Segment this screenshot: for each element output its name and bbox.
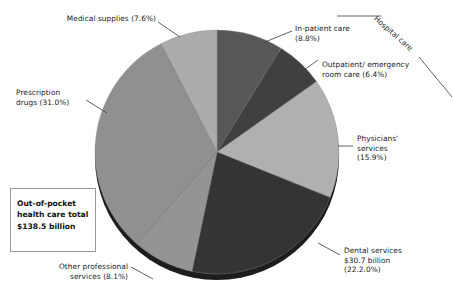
pie-slices: [95, 30, 339, 274]
label-medical-supplies: Medical supplies (7.6%): [36, 14, 156, 24]
label-in-patient-care: In-patient care (8.8%): [295, 24, 381, 43]
leader-outpatient: [304, 60, 318, 70]
label-physicians-services: Physicians' services (15.9%): [357, 134, 427, 163]
out-of-pocket-total-callout: Out-of-pocket health care total $138.5 b…: [10, 188, 96, 252]
leader-medical-supplies: [158, 22, 180, 37]
leader-other-professional: [131, 267, 153, 279]
bracket-hospital-diagonal: [419, 57, 452, 97]
leader-dental: [318, 243, 340, 255]
label-outpatient-er-care: Outpatient/ emergency room care (6.4%): [322, 60, 416, 79]
leader-in-patient: [265, 31, 292, 42]
chart-canvas: Medical supplies (7.6%) Prescription dru…: [0, 0, 453, 300]
label-other-professional-services: Other professional services (8.1%): [16, 262, 128, 281]
label-prescription-drugs: Prescription drugs (31.0%): [16, 88, 90, 107]
label-dental-services: Dental services $30.7 billion (22.2.0%): [344, 246, 434, 275]
callout-text: Out-of-pocket health care total $138.5 b…: [17, 198, 95, 232]
